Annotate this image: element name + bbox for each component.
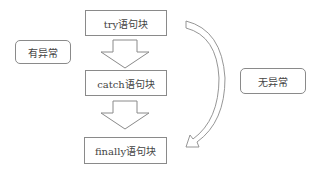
finally-block-label: finally语句块	[95, 143, 156, 158]
has-exception-label: 有异常	[28, 45, 58, 60]
try-block-label: try语句块	[104, 16, 148, 31]
down-arrow-icon	[101, 40, 149, 68]
no-exception-label-box: 无异常	[240, 68, 306, 94]
finally-block: finally语句块	[84, 137, 167, 164]
catch-block: catch语句块	[85, 70, 167, 96]
try-block: try语句块	[85, 10, 167, 36]
no-exception-label: 无异常	[258, 74, 288, 89]
curved-arrow-icon	[186, 21, 225, 147]
catch-block-label: catch语句块	[97, 76, 155, 91]
down-arrow-icon	[101, 101, 149, 129]
has-exception-label-box: 有异常	[15, 40, 71, 64]
